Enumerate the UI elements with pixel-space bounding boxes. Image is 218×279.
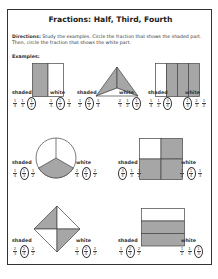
circled-fraction-option[interactable]: 34 [118, 167, 127, 180]
denominator: 2 [157, 104, 160, 108]
shaded-label: shaded [77, 90, 97, 95]
denominator: 2 [138, 174, 141, 178]
fraction-option[interactable]: 13 [129, 169, 135, 178]
denominator: 4 [121, 174, 124, 178]
white-fraction-choices: 121413 [179, 167, 203, 180]
denominator: 3 [129, 252, 132, 256]
circled-fraction-option[interactable]: 23 [85, 97, 94, 110]
white-fraction-choices: 242322 [74, 167, 98, 180]
fraction-option[interactable]: 13 [20, 99, 26, 108]
white-fraction-choices: 142312 [183, 97, 207, 110]
circled-fraction-option[interactable]: 13 [194, 245, 203, 258]
fraction-option[interactable]: 24 [74, 169, 80, 178]
denominator: 2 [138, 252, 141, 256]
denominator: 4 [188, 252, 191, 256]
fraction-option[interactable]: 22 [136, 247, 142, 256]
white-label: white [119, 90, 134, 95]
circled-fraction-option[interactable]: 24 [20, 245, 29, 258]
fraction-option[interactable]: 12 [156, 99, 162, 108]
white-fraction-choices: 132422 [74, 245, 98, 258]
fraction-option[interactable]: 13 [48, 99, 54, 108]
circled-fraction-option[interactable]: 13 [132, 97, 141, 110]
denominator: 4 [14, 104, 17, 108]
circled-fraction-option[interactable]: 23 [82, 167, 91, 180]
denominator: 2 [181, 252, 184, 256]
denominator: 3 [119, 104, 122, 108]
fraction-option[interactable]: 12 [179, 169, 185, 178]
fraction-option[interactable]: 22 [30, 247, 36, 256]
shape-square-fourths [139, 138, 183, 180]
directions: Directions: Study the examples. Circle t… [12, 34, 208, 46]
denominator: 2 [32, 174, 35, 178]
denominator: 3 [76, 252, 79, 256]
circled-fraction-option[interactable]: 12 [27, 97, 36, 110]
shape-rectangle-thirds-horizontal [141, 208, 185, 247]
circled-fraction-option[interactable]: 14 [183, 97, 192, 110]
denominator: 3 [120, 252, 123, 256]
fraction-option[interactable]: 12 [77, 99, 83, 108]
fraction-option[interactable]: 12 [30, 169, 36, 178]
fraction-option[interactable]: 23 [117, 99, 123, 108]
fraction-option[interactable]: 12 [201, 99, 207, 108]
fraction-option[interactable]: 13 [118, 247, 124, 256]
circled-fraction-option[interactable]: 13 [20, 167, 29, 180]
worksheet-frame: Fractions: Half, Third, Fourth Direction… [7, 9, 212, 265]
fraction-option[interactable]: 23 [12, 247, 18, 256]
denominator: 4 [23, 252, 26, 256]
circled-fraction-option[interactable]: 34 [163, 97, 172, 110]
denominator: 2 [94, 252, 97, 256]
directions-text: Study the examples. Circle the fraction … [12, 34, 201, 45]
denominator: 4 [97, 104, 100, 108]
denominator: 3 [88, 104, 91, 108]
fraction-option[interactable]: 12 [125, 99, 131, 108]
shaded-label: shaded [12, 90, 32, 95]
denominator: 3 [195, 104, 198, 108]
denominator: 2 [203, 104, 206, 108]
fraction-option[interactable]: 14 [12, 99, 18, 108]
denominator: 4 [76, 174, 79, 178]
white-fraction-choices: 131214 [48, 97, 72, 110]
examples-label: Examples: [12, 54, 40, 59]
fraction-option[interactable]: 13 [197, 169, 203, 178]
fraction-option[interactable]: 32 [136, 169, 142, 178]
fraction-option[interactable]: 14 [12, 169, 18, 178]
fraction-option[interactable]: 22 [92, 169, 98, 178]
directions-label: Directions: [12, 34, 41, 39]
denominator: 4 [150, 104, 153, 108]
shaded-label: shaded [12, 160, 32, 165]
denominator: 2 [30, 104, 33, 108]
worksheet-title: Fractions: Half, Third, Fourth [8, 15, 213, 24]
denominator: 3 [21, 104, 24, 108]
white-label: white [185, 90, 200, 95]
fraction-option[interactable]: 14 [66, 99, 72, 108]
shaded-fraction-choices: 141312 [12, 167, 36, 180]
fraction-option[interactable]: 14 [148, 99, 154, 108]
fraction-option[interactable]: 22 [92, 247, 98, 256]
circled-fraction-option[interactable]: 14 [187, 167, 196, 180]
denominator: 4 [166, 104, 169, 108]
circled-fraction-option[interactable]: 12 [56, 97, 65, 110]
circled-fraction-option[interactable]: 23 [126, 245, 135, 258]
shaded-label: shaded [118, 160, 138, 165]
denominator: 3 [130, 174, 133, 178]
circled-fraction-option[interactable]: 24 [82, 245, 91, 258]
fraction-option[interactable]: 34 [95, 99, 101, 108]
denominator: 3 [23, 174, 26, 178]
denominator: 2 [94, 174, 97, 178]
denominator: 3 [50, 104, 53, 108]
denominator: 2 [126, 104, 129, 108]
shaded-label: shaded [12, 238, 32, 243]
white-fraction-choices: 121413 [179, 245, 203, 258]
denominator: 2 [32, 252, 35, 256]
fraction-option[interactable]: 14 [187, 247, 193, 256]
denominator: 3 [197, 252, 200, 256]
shaded-label: shaded [118, 238, 138, 243]
denominator: 3 [135, 104, 138, 108]
white-label: white [181, 238, 196, 243]
denominator: 4 [186, 104, 189, 108]
fraction-option[interactable]: 13 [74, 247, 80, 256]
fraction-option[interactable]: 12 [179, 247, 185, 256]
denominator: 3 [85, 174, 88, 178]
white-fraction-choices: 231213 [117, 97, 141, 110]
fraction-option[interactable]: 23 [194, 99, 200, 108]
